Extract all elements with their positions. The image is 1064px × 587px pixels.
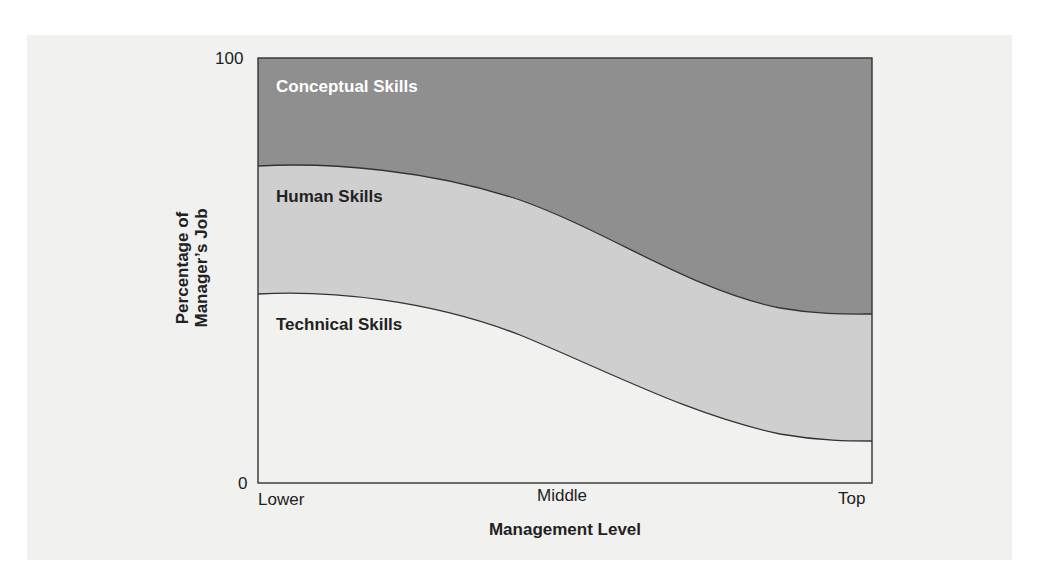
y-tick-100: 100: [215, 50, 243, 67]
technical-skills-label: Technical Skills: [276, 315, 402, 335]
y-tick-0: 0: [238, 475, 247, 492]
stacked-area-chart: [0, 0, 1064, 587]
y-axis-label-line1: Percentage of: [173, 208, 192, 327]
y-axis-label-line2: Manager’s Job: [192, 208, 211, 327]
x-tick-top: Top: [838, 490, 865, 507]
y-axis-label: Percentage of Manager’s Job: [173, 208, 211, 327]
x-tick-lower: Lower: [258, 491, 304, 508]
x-axis-label: Management Level: [489, 520, 641, 540]
conceptual-skills-label: Conceptual Skills: [276, 77, 418, 97]
x-tick-middle: Middle: [537, 487, 587, 504]
human-skills-label: Human Skills: [276, 187, 383, 207]
